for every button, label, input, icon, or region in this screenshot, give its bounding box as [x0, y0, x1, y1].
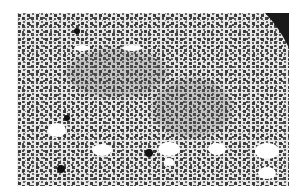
- vacuole: [164, 158, 174, 166]
- vacuole: [158, 142, 180, 156]
- dark-cell-cluster: [64, 115, 70, 121]
- dark-cell-cluster: [74, 28, 80, 34]
- dark-cell-cluster: [57, 165, 65, 173]
- vacuole: [255, 143, 279, 159]
- vacuole: [258, 167, 276, 179]
- vacuole: [74, 45, 90, 51]
- micrograph-canvas: [17, 13, 289, 186]
- dense-region: [152, 78, 232, 138]
- histology-micrograph: [17, 13, 289, 186]
- dense-region: [67, 48, 167, 98]
- vacuole: [92, 144, 112, 156]
- vacuole: [48, 123, 66, 137]
- dark-cell-cluster: [145, 149, 153, 157]
- tissue-texture-overlay: [17, 13, 289, 186]
- vacuole: [122, 45, 142, 51]
- vacuole: [208, 143, 226, 155]
